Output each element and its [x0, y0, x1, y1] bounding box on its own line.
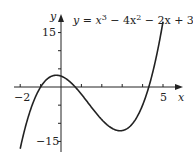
- x-tick-label-5: 5: [160, 91, 167, 104]
- x-tick-label-neg2: −2: [14, 91, 30, 104]
- y-axis-label: y: [49, 10, 57, 23]
- y-axis-arrow-icon: [58, 14, 64, 22]
- equation-label: y = x3 − 4x2 − 2x + 3: [72, 13, 193, 27]
- x-axis-arrow-icon: [175, 84, 183, 90]
- y-tick-label-15: 15: [42, 26, 56, 39]
- cubic-curve: [20, 22, 163, 149]
- cubic-graph: y x −2 5 15 −15 y = x3 − 4x2 − 2x + 3: [0, 0, 193, 163]
- x-axis-label: x: [178, 91, 185, 104]
- y-tick-label-neg15: −15: [36, 135, 59, 148]
